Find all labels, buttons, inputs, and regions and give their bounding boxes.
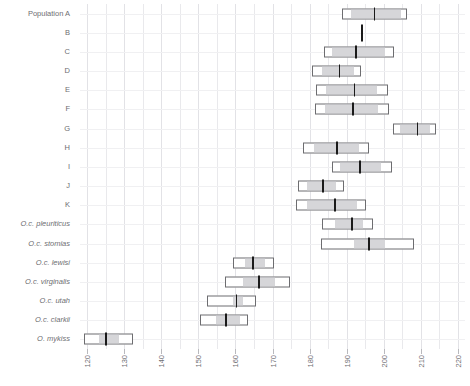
x-tick-label-200: 200 [380,355,389,368]
x-tick-170 [273,349,274,354]
box-row [80,85,465,96]
plot-area [80,4,465,349]
median-marker [339,65,341,78]
x-tick-220 [458,349,459,354]
median-marker [361,24,363,41]
y-axis-label-h: H [65,144,70,152]
x-tick-180 [310,349,311,354]
y-axis-labels: Population ABCDEFGHIJKO.c. pleuriticusO.… [0,4,74,349]
y-axis-label-d: D [65,67,70,75]
interquartile-box [245,258,266,267]
median-marker [374,7,376,20]
x-tick-label-170: 170 [269,355,278,368]
box-row [80,123,465,134]
interquartile-box [233,297,243,306]
whisker-range-box [207,296,257,307]
box-row [80,27,465,38]
x-tick-120 [87,349,88,354]
x-tick-label-190: 190 [343,355,352,368]
median-marker [322,180,324,193]
interquartile-box [326,86,377,95]
interquartile-box [322,67,354,76]
box-row [80,200,465,211]
y-axis-label-o-c-lewisi: O.c. lewisi [36,259,70,267]
y-axis-label-o-c-stomias: O.c. stomias [28,240,70,248]
median-marker [225,314,227,327]
median-marker [359,160,361,173]
interquartile-box [351,9,401,18]
y-axis-label-c: C [65,48,70,56]
x-tick-label-220: 220 [454,355,463,368]
x-tick-label-140: 140 [157,355,166,368]
box-row [80,219,465,230]
x-tick-210 [421,349,422,354]
interquartile-box [340,162,381,171]
x-tick-190 [347,349,348,354]
x-tick-150 [198,349,199,354]
box-row [80,142,465,153]
interquartile-box [307,201,357,210]
box-row [80,334,465,345]
x-tick-label-120: 120 [83,355,92,368]
x-tick-200 [384,349,385,354]
y-axis-label-population-a: Population A [28,10,70,18]
box-row [80,46,465,57]
median-marker [105,333,107,346]
x-tick-label-180: 180 [306,355,315,368]
x-tick-label-210: 210 [417,355,426,368]
median-marker [351,218,353,231]
x-tick-label-150: 150 [194,355,203,368]
y-axis-label-i: I [68,163,70,171]
median-marker [334,199,336,212]
median-marker [355,45,357,58]
median-marker [252,256,254,269]
y-axis-label-o-c-clarkii: O.c. clarkii [35,317,70,325]
box-row [80,8,465,19]
boxplot-chart: Population ABCDEFGHIJKO.c. pleuriticusO.… [0,0,470,386]
median-marker [354,84,356,97]
median-marker [417,122,419,135]
box-row [80,238,465,249]
median-marker [352,103,354,116]
y-axis-label-g: G [64,125,70,133]
y-axis-label-f: F [65,106,70,114]
interquartile-box [335,220,363,229]
median-marker [258,275,260,288]
y-axis-label-o-c-virginalis: O.c. virginalis [25,278,70,286]
box-row [80,276,465,287]
y-axis-label-o-mykiss: O. mykiss [37,336,70,344]
y-axis-label-e: E [65,87,70,95]
y-axis-label-o-c-utah: O.c. utah [40,297,70,305]
box-row [80,104,465,115]
box-row [80,66,465,77]
median-marker [336,141,338,154]
x-tick-label-160: 160 [231,355,240,368]
y-axis-label-j: J [66,182,70,190]
x-tick-label-130: 130 [120,355,129,368]
box-row [80,296,465,307]
x-axis-tick-labels: 120130140150160170180190200210220 [80,355,465,385]
box-row [80,315,465,326]
x-tick-160 [235,349,236,354]
interquartile-box [400,124,430,133]
box-row [80,161,465,172]
x-tick-140 [161,349,162,354]
median-marker [236,295,238,308]
y-axis-label-o-c-pleuriticus: O.c. pleuriticus [20,221,70,229]
interquartile-box [332,47,385,56]
box-row [80,257,465,268]
y-axis-label-b: B [65,29,70,37]
median-marker [368,237,370,250]
interquartile-box [216,316,240,325]
x-tick-130 [124,349,125,354]
box-row [80,181,465,192]
interquartile-box [99,335,119,344]
y-axis-label-k: K [65,202,70,210]
